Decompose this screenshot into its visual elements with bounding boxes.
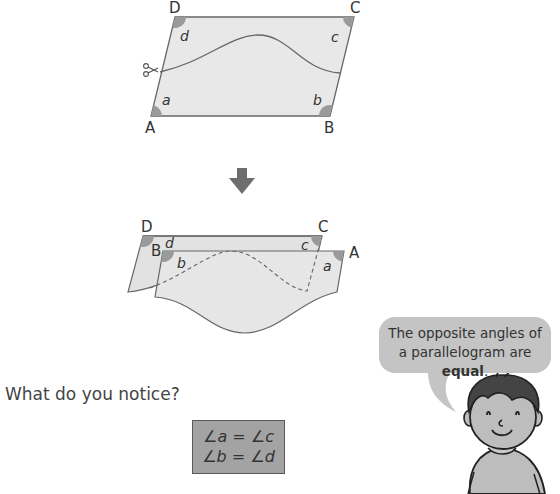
boy-character — [464, 366, 545, 494]
bubble-text: The opposite angles of a parallelogram a… — [388, 325, 542, 360]
angle-label-b: b — [313, 92, 322, 108]
arrow-down-icon — [229, 168, 255, 194]
angle-label-c2: c — [301, 237, 309, 253]
vertex-label-A2: A — [349, 244, 360, 262]
angle-label-a2: a — [323, 258, 332, 274]
vertex-label-D: D — [169, 0, 181, 17]
vertex-label-B2: B — [151, 242, 161, 260]
vertex-label-B: B — [324, 119, 334, 137]
answer-box: ∠a = ∠c ∠b = ∠d — [192, 420, 285, 474]
answer-line-1: ∠a = ∠c — [203, 427, 274, 447]
speech-bubble: The opposite angles of a parallelogram a… — [379, 317, 551, 373]
vertex-label-C: C — [350, 0, 360, 17]
angle-label-c: c — [331, 29, 339, 45]
parallelogram-rearranged: D C B A d c b a — [128, 218, 360, 333]
vertex-label-A: A — [145, 119, 156, 137]
parallelogram-original: D C B A d c b a — [144, 0, 361, 137]
vertex-label-D2: D — [141, 218, 153, 236]
angle-label-a: a — [162, 92, 171, 108]
bubble-text-end: . — [484, 363, 488, 379]
answer-line-2: ∠b = ∠d — [202, 447, 275, 467]
angle-label-b2: b — [177, 255, 186, 271]
angle-label-d2: d — [165, 235, 174, 251]
scissors-icon — [144, 64, 158, 77]
angle-label-d: d — [180, 28, 189, 44]
vertex-label-C2: C — [318, 218, 328, 236]
bubble-bold-text: equal — [442, 363, 484, 379]
question-text: What do you notice? — [5, 384, 180, 404]
